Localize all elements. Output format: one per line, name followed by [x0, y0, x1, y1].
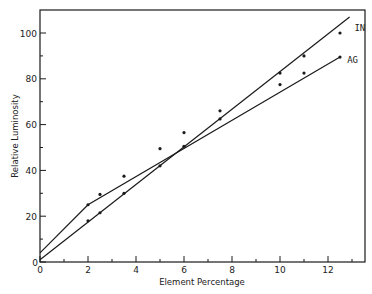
series-labels: INAG: [347, 23, 365, 65]
x-tick-label: 4: [133, 265, 139, 275]
series-label-ag: AG: [347, 55, 358, 65]
data-point: [158, 147, 161, 150]
plot-frame: [40, 10, 365, 262]
x-tick-label: 12: [322, 265, 333, 275]
series-line-ag: [40, 57, 340, 253]
series-lines: [40, 17, 350, 260]
y-tick-label: 40: [26, 166, 38, 176]
x-tick-label: 8: [229, 265, 235, 275]
x-axis-ticks: 024681012: [37, 256, 352, 275]
data-point: [158, 164, 161, 167]
x-tick-label: 2: [85, 265, 91, 275]
data-point: [122, 192, 125, 195]
data-point: [122, 175, 125, 178]
data-point: [182, 131, 185, 134]
x-tick-label: 0: [37, 265, 43, 275]
y-axis-ticks: 020406080100: [20, 29, 46, 268]
data-point: [302, 71, 305, 74]
y-tick-label: 0: [32, 258, 38, 268]
series-line-in: [40, 17, 350, 260]
data-point: [86, 203, 89, 206]
data-point: [98, 211, 101, 214]
y-tick-label: 100: [20, 29, 37, 39]
y-tick-label: 80: [26, 74, 38, 84]
data-point: [182, 145, 185, 148]
data-point: [218, 117, 221, 120]
y-tick-label: 20: [26, 212, 38, 222]
data-point: [278, 71, 281, 74]
data-point: [338, 55, 341, 58]
series-label-in: IN: [354, 23, 365, 33]
data-point: [218, 109, 221, 112]
data-point: [278, 83, 281, 86]
data-point: [302, 54, 305, 57]
y-axis-label: Relative Luminosity: [10, 94, 20, 177]
data-point: [98, 193, 101, 196]
series-points: [86, 31, 341, 222]
data-point: [338, 31, 341, 34]
x-tick-label: 6: [181, 265, 187, 275]
line-chart: 024681012 020406080100 INAG Element Perc…: [0, 0, 372, 294]
y-tick-label: 60: [26, 120, 38, 130]
x-axis-label: Element Percentage: [159, 277, 245, 287]
x-tick-label: 10: [274, 265, 286, 275]
data-point: [86, 219, 89, 222]
